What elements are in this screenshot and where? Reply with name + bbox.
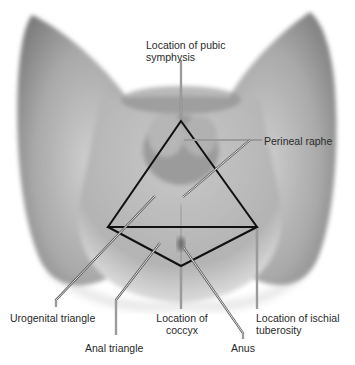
label-urogenital-triangle: Urogenital triangle <box>10 312 95 324</box>
label-perineal-raphe: Perineal raphe <box>264 135 332 147</box>
label-anus: Anus <box>231 342 255 354</box>
label-pubic-symphysis: Location of pubic symphysis <box>146 39 225 63</box>
label-anal-triangle: Anal triangle <box>85 342 143 354</box>
label-ischial-tuberosity: Location of ischial tuberosity <box>256 312 339 336</box>
label-coccyx: Location of coccyx <box>153 312 211 336</box>
perineum-diagram: Location of pubic symphysis Perineal rap… <box>0 0 355 365</box>
